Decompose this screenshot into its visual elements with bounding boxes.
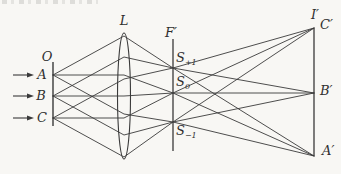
object-point-b-label: B: [36, 89, 46, 102]
image-point-c-label: C′: [320, 18, 333, 31]
focal-spot-zero-label: S0: [176, 75, 190, 91]
image-point-a-label: A′: [322, 144, 334, 157]
input-arrow-head: [27, 93, 34, 98]
focal-spot-zero-base: S: [176, 74, 185, 89]
focal-spot-minus1-base: S: [176, 123, 185, 138]
light-ray: [53, 93, 314, 96]
focal-spot-zero-sub: 0: [185, 82, 190, 91]
light-ray: [53, 28, 314, 118]
image-plane-label: I′: [311, 8, 319, 21]
optics-figure: O A B C L F′ S+1 S0 S−1 I′ C′ B′ A′: [0, 0, 341, 174]
focal-spot-plus1-sub: +1: [185, 58, 197, 67]
focal-spot-plus1-label: S+1: [176, 51, 197, 67]
focal-plane-label: F′: [165, 26, 177, 39]
focal-spot-plus1-base: S: [176, 50, 185, 65]
focal-spot-minus1-label: S−1: [176, 124, 197, 140]
lens-label: L: [120, 14, 129, 27]
image-point-b-label: B′: [320, 84, 333, 97]
focal-spot-minus1-sub: −1: [185, 131, 197, 140]
object-point-c-label: C: [37, 111, 47, 124]
object-plane-label: O: [42, 50, 53, 63]
input-arrow-head: [27, 72, 34, 77]
light-ray: [53, 28, 314, 118]
object-point-a-label: A: [37, 68, 46, 81]
input-arrow-head: [27, 115, 34, 120]
